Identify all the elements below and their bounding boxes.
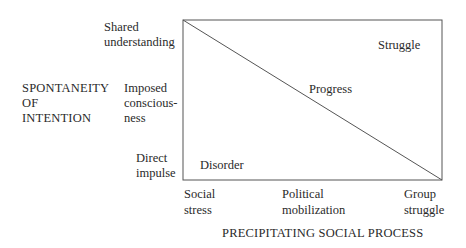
region-disorder: Disorder	[200, 158, 244, 173]
x-tick-group-line1: Group	[404, 187, 436, 202]
region-struggle: Struggle	[378, 38, 420, 53]
y-tick-direct-line1: Direct	[136, 151, 167, 166]
y-tick-imposed-line3: ness	[124, 111, 146, 126]
y-tick-imposed-line1: Imposed	[124, 81, 167, 96]
y-tick-shared-line2: understanding	[104, 35, 175, 50]
y-tick-direct-line2: impulse	[136, 166, 176, 181]
x-tick-political-line1: Political	[282, 187, 324, 202]
x-tick-social-line1: Social	[184, 187, 215, 202]
y-axis-title-line2: OF	[22, 96, 38, 111]
x-tick-group-line2: struggle	[404, 203, 444, 218]
x-tick-political-line2: mobilization	[282, 203, 345, 218]
y-axis-title-line3: INTENTION	[22, 111, 91, 126]
y-tick-shared-line1: Shared	[104, 20, 139, 35]
x-tick-social-line2: stress	[184, 203, 212, 218]
y-axis-title-line1: SPONTANEITY	[22, 81, 109, 96]
y-tick-imposed-line2: conscious-	[124, 96, 177, 111]
region-progress: Progress	[309, 82, 352, 97]
x-axis-title: PRECIPITATING SOCIAL PROCESS	[222, 226, 423, 241]
